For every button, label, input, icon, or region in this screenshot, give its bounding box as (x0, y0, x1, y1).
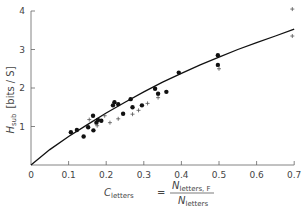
dot-marker (69, 130, 73, 134)
x-tick-label: 0.1 (61, 170, 75, 180)
plus-marker (217, 67, 221, 71)
x-label-equals: = (157, 187, 165, 198)
dot-marker (130, 105, 134, 109)
fitted-curve (31, 29, 294, 165)
axes (31, 11, 294, 165)
plus-marker (87, 118, 91, 122)
dot-marker (99, 119, 103, 123)
x-tick-label: 0.5 (212, 170, 226, 180)
dot-marker (216, 63, 220, 67)
y-axis-label: Hsub[bits / S] (5, 66, 18, 133)
fit-curve-path (31, 29, 294, 165)
dot-marker (140, 103, 144, 107)
dot-marker (91, 114, 95, 118)
x-label-numerator-sub: letters, F (179, 185, 210, 193)
dot-marker (156, 92, 160, 96)
svg-text:Nletters: Nletters (178, 195, 208, 208)
y-label-sub: sub (10, 113, 18, 126)
y-tick-label: 3 (19, 45, 25, 55)
dot-marker (91, 128, 95, 132)
x-tick-label: 0 (28, 170, 34, 180)
svg-text:Nletters, F: Nletters, F (172, 180, 211, 193)
x-tick-label: 0.7 (287, 170, 301, 180)
dot-marker (164, 90, 168, 94)
y-tick-label: 1 (19, 122, 25, 132)
dot-marker (121, 112, 125, 116)
x-label-denominator-sub: letters (185, 200, 208, 208)
plus-marker (146, 101, 150, 105)
y-tick-label: 2 (19, 83, 25, 93)
x-label-lhs-sub: letters (111, 192, 134, 200)
plus-marker (131, 112, 135, 116)
y-label-unit: [bits / S] (5, 66, 16, 108)
axis-ticks: 00.10.20.30.40.50.60.71234 (19, 6, 301, 180)
dot-marker (216, 53, 220, 57)
svg-text:Hsub[bits / S]: Hsub[bits / S] (5, 66, 18, 133)
dot-marker (86, 125, 90, 129)
y-tick-label: 4 (19, 6, 25, 16)
dot-marker (112, 100, 116, 104)
dot-marker (75, 128, 79, 132)
x-tick-label: 0.2 (99, 170, 113, 180)
dot-marker (116, 102, 120, 106)
x-label-lhs: C (104, 187, 111, 198)
x-tick-label: 0.3 (137, 170, 151, 180)
plus-marker (290, 7, 294, 11)
dot-marker (128, 97, 132, 101)
dot-marker (81, 134, 85, 138)
plus-marker (156, 96, 160, 100)
plus-marker (290, 34, 294, 38)
plus-marker (108, 121, 112, 125)
chart-container: 00.10.20.30.40.50.60.71234 Hsub[bits / S… (0, 0, 307, 210)
plus-marker (116, 117, 120, 121)
x-tick-label: 0.4 (174, 170, 189, 180)
plus-marker (137, 108, 141, 112)
x-axis-label: Cletters = Nletters, F Nletters (104, 180, 214, 208)
dot-marker (153, 87, 157, 91)
x-tick-label: 0.6 (249, 170, 264, 180)
svg-text:Cletters: Cletters (104, 187, 134, 200)
dot-marker (177, 70, 181, 74)
scatter-plot: 00.10.20.30.40.50.60.71234 Hsub[bits / S… (0, 0, 307, 210)
